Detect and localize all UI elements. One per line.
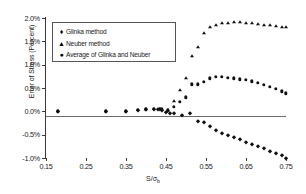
data-point-triangle [190,55,194,58]
y-tick-label: 2.0% [8,14,40,23]
data-point-triangle [214,23,218,26]
data-point-diamond [284,156,288,160]
data-point-triangle [226,21,230,24]
triangle-marker-icon: ▲ [57,39,66,48]
x-tick-label: 0.35 [112,162,140,171]
legend-item-neuber: ▲ Neuber method [57,38,171,50]
legend-item-average: ● Average of Glinka and Neuber [57,49,171,61]
x-tick-label: 0.25 [72,162,100,171]
x-tick-mark [86,158,87,161]
y-tick-label: 0.5% [8,84,40,93]
data-point-triangle [238,21,242,24]
diamond-marker-icon: ♦ [57,27,66,36]
data-point-triangle [244,21,248,24]
data-point-triangle [178,89,182,92]
x-tick-mark [126,158,127,161]
data-point-triangle [268,24,272,27]
x-axis-title: S/σb [0,175,306,184]
x-tick-mark [166,158,167,161]
x-tick-label: 0.15 [32,162,60,171]
data-point-triangle [256,22,260,25]
legend-item-glinka: ♦ Glinka method [57,26,171,38]
x-tick-label: 0.55 [192,162,220,171]
data-point-triangle [284,26,288,29]
x-tick-mark [46,158,47,161]
legend-label-neuber: Neuber method [66,40,110,47]
data-point-triangle [202,32,206,35]
data-point-circle [284,91,287,94]
x-tick-label: 0.65 [232,162,260,171]
chart-legend: ♦ Glinka method ▲ Neuber method ● Averag… [52,22,176,62]
data-point-triangle [274,24,278,27]
y-tick-label: 0.0% [8,107,40,116]
x-tick-label: 0.75 [272,162,300,171]
data-point-triangle [220,21,224,24]
x-axis-title-sub: b [157,178,160,184]
y-tick-label: 1.0% [8,60,40,69]
legend-label-glinka: Glinka method [66,28,107,35]
x-axis-title-main: S/σ [146,175,157,182]
y-tick-label: 1.5% [8,37,40,46]
x-tick-mark [246,158,247,161]
data-point-triangle [250,21,254,24]
data-point-triangle [196,46,200,49]
circle-marker-icon: ● [57,50,66,59]
legend-label-average: Average of Glinka and Neuber [66,51,150,58]
data-point-triangle [232,21,236,24]
data-point-triangle [208,26,212,29]
x-tick-label: 0.45 [152,162,180,171]
y-tick-label: -0.5% [8,130,40,139]
data-point-triangle [262,23,266,26]
data-point-triangle [172,99,176,102]
chart-figure: Error of Stress (Percent) -1.0%-0.5%0.0%… [0,0,306,194]
x-tick-mark [206,158,207,161]
data-point-triangle [184,76,188,79]
